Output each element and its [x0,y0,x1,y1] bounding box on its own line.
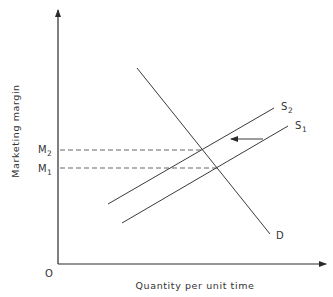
demand-label: D [276,230,284,241]
demand-curve [137,68,270,234]
m1-label-sub: 1 [47,168,52,177]
x-axis-label: Quantity per unit time [136,280,255,291]
m1-label: M 1 [38,163,52,177]
supply-demand-diagram: Marketing margin Quantity per unit time … [0,0,333,297]
s1-label-sub: 1 [302,125,307,134]
supply-curve-s2 [108,108,274,204]
m2-label-sub: 2 [47,149,52,158]
s2-label-main: S [281,101,287,112]
supply-curve-s1 [122,126,288,223]
y-axis-label: Marketing margin [10,84,21,177]
m2-label: M 2 [38,144,52,158]
m1-label-main: M [38,163,47,174]
m2-label-main: M [38,144,47,155]
origin-label: O [45,268,53,279]
s2-label-sub: 2 [288,106,293,115]
s1-label: S 1 [295,120,307,134]
s1-label-main: S [295,120,301,131]
s2-label: S 2 [281,101,293,115]
